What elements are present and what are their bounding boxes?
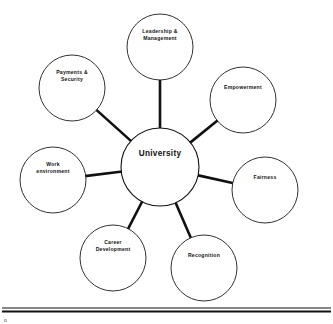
node-circle-payments-security[interactable] bbox=[39, 55, 105, 121]
node-circle-work-environment[interactable] bbox=[20, 147, 86, 213]
node-label-recognition: Recognition bbox=[188, 252, 220, 258]
spoke-line-career-development bbox=[128, 201, 143, 230]
hub-label: University bbox=[139, 149, 182, 158]
node-recognition[interactable]: Recognition bbox=[171, 235, 237, 301]
node-fairness[interactable]: Fairness bbox=[232, 157, 298, 223]
spoke-line-fairness bbox=[197, 175, 234, 183]
footer-mark: o bbox=[4, 317, 7, 323]
node-work-environment[interactable]: Workenvironment bbox=[20, 147, 86, 213]
node-label-leadership-management: Management bbox=[143, 35, 177, 41]
node-label-fairness: Fairness bbox=[254, 174, 277, 180]
node-circle-leadership-management[interactable] bbox=[127, 14, 193, 80]
node-label-payments-security: Security bbox=[61, 76, 83, 82]
node-career-development[interactable]: CareerDevelopment bbox=[80, 225, 146, 291]
node-label-career-development: Career bbox=[104, 239, 122, 245]
node-circle-career-development[interactable] bbox=[80, 225, 146, 291]
spoke-line-work-environment bbox=[85, 172, 123, 177]
spoke-line-payments-security bbox=[96, 109, 132, 141]
node-leadership-management[interactable]: Leadership &Management bbox=[127, 14, 193, 80]
node-circle-fairness[interactable] bbox=[232, 157, 298, 223]
node-label-leadership-management: Leadership & bbox=[142, 28, 177, 34]
node-label-empowerment: Empowerment bbox=[224, 84, 262, 90]
node-label-work-environment: Work bbox=[46, 161, 60, 167]
node-circle-recognition[interactable] bbox=[171, 235, 237, 301]
spoke-line-recognition bbox=[175, 202, 191, 239]
spoke-line-empowerment bbox=[190, 120, 219, 143]
node-label-work-environment: environment bbox=[36, 168, 69, 174]
hub-circle[interactable] bbox=[121, 128, 199, 206]
node-circle-empowerment[interactable] bbox=[210, 67, 276, 133]
hub-node[interactable]: University bbox=[121, 128, 199, 206]
node-payments-security[interactable]: Payments &Security bbox=[39, 55, 105, 121]
mind-map-diagram: Leadership &ManagementEmpowermentFairnes… bbox=[0, 0, 333, 324]
node-label-career-development: Development bbox=[96, 246, 131, 252]
mind-map-canvas: Leadership &ManagementEmpowermentFairnes… bbox=[0, 0, 333, 324]
node-empowerment[interactable]: Empowerment bbox=[210, 67, 276, 133]
footer-separator: o bbox=[2, 308, 331, 323]
node-label-payments-security: Payments & bbox=[56, 69, 88, 75]
